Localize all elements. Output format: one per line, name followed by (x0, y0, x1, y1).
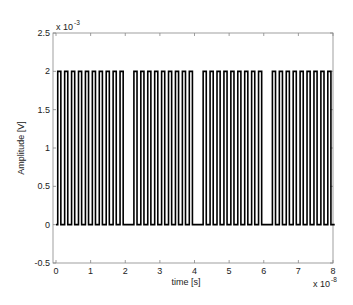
y-tick-label: 0.5 (37, 181, 50, 191)
x-scale-multiplier: x 10 -8 (313, 276, 337, 289)
y-tick-label: 1 (45, 143, 50, 153)
svg-text:-3: -3 (74, 19, 80, 26)
svg-text:-8: -8 (331, 276, 337, 283)
y-tick-label: 0 (45, 220, 50, 230)
x-tick-label: 3 (157, 266, 162, 276)
y-scale-multiplier: x 10 -3 (56, 19, 80, 32)
x-axis-label: time [s] (171, 277, 200, 287)
pulse-train-chart: -0.500.511.522.5 012345678 Amplitude [V]… (0, 0, 353, 305)
y-axis-label: Amplitude [V] (16, 121, 26, 175)
x-tick-label: 1 (88, 266, 93, 276)
x-tick-label: 5 (227, 266, 232, 276)
svg-text:x 10: x 10 (313, 279, 330, 289)
y-tick-label: -0.5 (34, 258, 50, 268)
y-tick-label: 2.5 (37, 28, 50, 38)
svg-text:x 10: x 10 (56, 22, 73, 32)
x-tick-label: 6 (261, 266, 266, 276)
x-tick-label: 0 (53, 266, 58, 276)
y-tick-label: 2 (45, 66, 50, 76)
x-tick-label: 8 (330, 266, 335, 276)
x-tick-label: 2 (123, 266, 128, 276)
x-tick-label: 4 (192, 266, 197, 276)
x-tick-label: 7 (296, 266, 301, 276)
y-tick-label: 1.5 (37, 105, 50, 115)
